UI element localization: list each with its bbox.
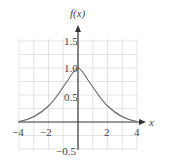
axes: [18, 28, 144, 150]
tick-y-0.5: 0.5: [64, 91, 78, 103]
chart: f(x) x −4 −2 2 4 1.5 1.0 0.5 −0.5: [0, 0, 170, 168]
tick-y-1.5: 1.5: [64, 35, 78, 47]
x-axis-label: x: [148, 116, 154, 128]
tick-x-m4: −4: [12, 126, 24, 138]
tick-y-1.0: 1.0: [64, 62, 78, 74]
tick-x-2: 2: [104, 126, 110, 138]
tick-x-4: 4: [134, 126, 140, 138]
tick-x-m2: −2: [40, 126, 52, 138]
tick-y-m0.5: −0.5: [56, 145, 76, 157]
y-axis-arrow-icon: [75, 25, 81, 32]
y-axis-label: f(x): [70, 7, 86, 20]
x-axis-arrow-icon: [139, 119, 146, 125]
